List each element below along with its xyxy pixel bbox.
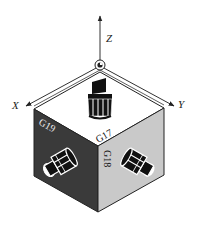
z-axis-label: Z <box>106 32 113 44</box>
g18-label: G18 <box>102 150 113 167</box>
y-axis-label: Y <box>178 98 186 110</box>
plane-selection-diagram: Z X Y G19 G17 G18 <box>0 0 199 227</box>
origin-marker-icon <box>95 60 105 70</box>
x-axis-label: X <box>11 99 20 111</box>
